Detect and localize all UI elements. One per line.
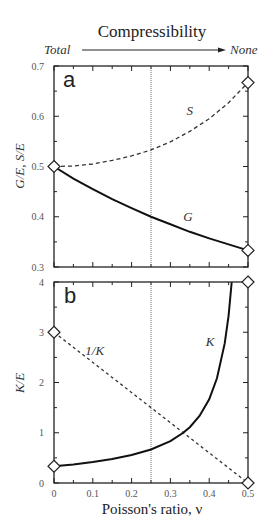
panel-a-s-label: S (187, 103, 194, 118)
figure: Compressibility Total None 0.30.40.50.60… (0, 0, 266, 528)
panel-b-k-curve (54, 282, 232, 466)
x-axis-title: Poisson's ratio, ν (102, 501, 203, 517)
panel-a-y-tick-labels: 0.30.40.50.60.7 (32, 61, 45, 273)
panel-a-g-label: G (183, 209, 193, 224)
y-tick-label: 0.3 (32, 262, 45, 273)
diamond-marker-icon (48, 460, 60, 472)
y-tick-label: 3 (39, 327, 44, 338)
diamond-marker-icon (242, 276, 254, 288)
panel-b-k-label: K (205, 334, 216, 349)
x-tick-label: 0.1 (87, 488, 100, 499)
panel-a-letter: a (63, 67, 76, 92)
arrow-head-icon (218, 48, 226, 53)
panel-b-y-axis-title: K/E (12, 373, 27, 394)
panel-b-inverse-k-label: 1/K (85, 343, 105, 358)
compressibility-header: Compressibility Total None (44, 22, 258, 57)
panel-b-y-tick-labels: 01234 (39, 277, 44, 489)
panel-a-y-axis-title: G/E, S/E (12, 143, 27, 189)
header-right-label: None (229, 42, 258, 57)
panel-b-x-tick-labels: 00.10.20.30.40.5 (52, 488, 255, 499)
y-tick-label: 2 (39, 377, 44, 388)
x-tick-label: 0.4 (203, 488, 216, 499)
diamond-marker-icon (48, 161, 60, 173)
x-tick-label: 0.2 (125, 488, 138, 499)
header-left-label: Total (44, 42, 71, 57)
panel-b-letter: b (64, 283, 76, 308)
header-title: Compressibility (98, 22, 207, 41)
y-tick-label: 0.6 (32, 111, 45, 122)
y-tick-label: 1 (39, 427, 44, 438)
y-tick-label: 0.7 (32, 61, 45, 72)
y-tick-label: 0 (39, 478, 44, 489)
diamond-marker-icon (242, 244, 254, 256)
panel-a: 0.30.40.50.60.7 a S G G/E, S/E (12, 61, 254, 273)
y-tick-label: 0.5 (32, 161, 45, 172)
x-tick-label: 0.3 (164, 488, 177, 499)
diamond-marker-icon (48, 326, 60, 338)
panel-b: 01234 00.10.20.30.40.5 b 1/K K K/E (12, 276, 254, 499)
x-tick-label: 0 (52, 488, 57, 499)
y-tick-label: 0.4 (32, 211, 45, 222)
y-tick-label: 4 (39, 277, 44, 288)
